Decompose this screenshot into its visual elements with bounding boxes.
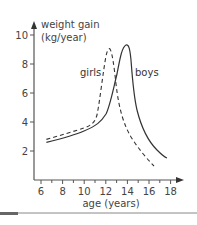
- x-tick-label: 16: [143, 186, 156, 197]
- boys-label: boys: [135, 67, 159, 78]
- x-ticks: [41, 180, 171, 184]
- y-axis-title-line2: (kg/year): [41, 32, 87, 43]
- y-tick-label: 6: [22, 88, 28, 99]
- y-tick-label: 8: [22, 59, 28, 70]
- boys-line: [46, 45, 167, 158]
- x-tick-label: 10: [78, 186, 91, 197]
- x-tick-label: 14: [121, 186, 134, 197]
- x-tick-label: 18: [164, 186, 177, 197]
- x-tick-label: 6: [38, 186, 44, 197]
- y-axis-arrow-icon: [31, 21, 37, 29]
- x-axis-title: age (years): [82, 198, 139, 209]
- x-axis-arrow-icon: [176, 177, 184, 183]
- x-tick-label: 8: [59, 186, 65, 197]
- growth-chart: 10 8 6 4 2 6 8 10 12 14 16 18 weight gai…: [0, 0, 197, 225]
- y-tick-label: 4: [22, 117, 28, 128]
- girls-label: girls: [80, 67, 101, 78]
- bottom-rule-block: [0, 212, 18, 215]
- y-tick-label: 2: [22, 146, 28, 157]
- y-tick-label: 10: [15, 30, 28, 41]
- x-tick-label: 12: [99, 186, 112, 197]
- y-axis-title-line1: weight gain: [41, 19, 100, 30]
